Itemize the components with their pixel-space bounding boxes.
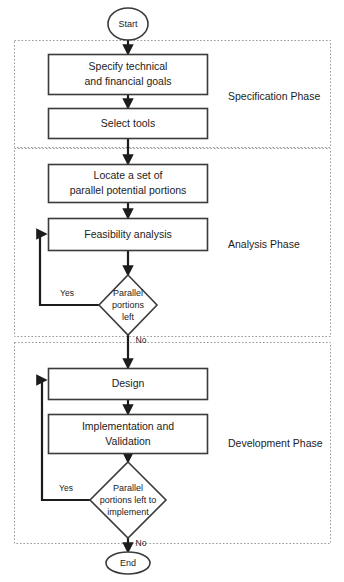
- phase-label-specification: Specification Phase: [228, 90, 320, 102]
- node-select-tools-label: Select tools: [101, 117, 155, 129]
- node-end-label: End: [120, 558, 136, 568]
- node-decision-development-line1: Parallel: [113, 483, 143, 493]
- node-start-label: Start: [118, 19, 138, 29]
- edge-label-analysis-no: No: [136, 335, 147, 345]
- node-specify-goals-line1: Specify technical: [89, 60, 168, 72]
- node-decision-development-line3: implement: [107, 507, 149, 517]
- node-feasibility-analysis-label: Feasibility analysis: [84, 228, 172, 240]
- node-locate-portions-line2: parallel potential portions: [70, 184, 187, 196]
- node-locate-portions-line1: Locate a set of: [94, 169, 163, 181]
- flowchart-svg: Start Specify technical and financial go…: [0, 0, 344, 582]
- phase-label-analysis: Analysis Phase: [228, 238, 300, 250]
- node-implementation-line2: Validation: [105, 435, 150, 447]
- phase-label-development: Development Phase: [228, 437, 323, 449]
- edge-label-development-no: No: [136, 538, 147, 548]
- node-decision-development-line2: portions left to: [100, 495, 157, 505]
- node-specify-goals-line2: and financial goals: [85, 75, 172, 87]
- node-decision-analysis-line2: portions: [112, 300, 145, 310]
- flowchart-canvas: Start Specify technical and financial go…: [0, 0, 344, 582]
- node-decision-analysis-line1: Parallel: [113, 288, 143, 298]
- node-design-label: Design: [112, 377, 145, 389]
- edge-label-development-yes: Yes: [59, 483, 73, 493]
- node-decision-analysis-line3: left: [122, 312, 135, 322]
- edge-label-analysis-yes: Yes: [60, 288, 74, 298]
- node-implementation-line1: Implementation and: [82, 420, 174, 432]
